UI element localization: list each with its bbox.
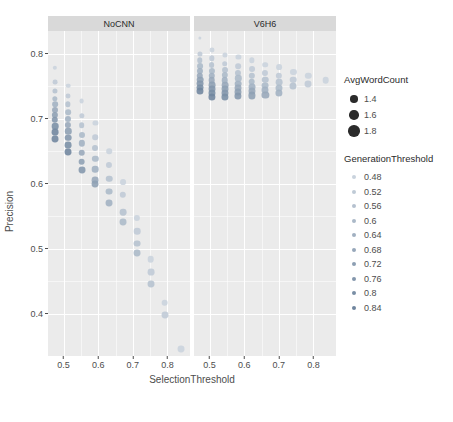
data-point bbox=[51, 135, 58, 142]
data-point bbox=[275, 89, 282, 96]
data-point bbox=[197, 51, 202, 56]
legend-entry-label: 1.4 bbox=[364, 94, 377, 104]
gridline-horizontal bbox=[194, 249, 336, 250]
legend-entry-label: 0.76 bbox=[364, 274, 382, 284]
facet-nocnn: NoCNN bbox=[48, 16, 190, 356]
x-axis-tick-label: 0.8 bbox=[161, 356, 174, 370]
legend-entry[interactable]: 0.6 bbox=[344, 214, 452, 229]
gridline-vertical bbox=[313, 31, 314, 356]
legend-key-dot-icon bbox=[344, 219, 364, 223]
legend-entry-label: 1.8 bbox=[364, 126, 377, 136]
data-point bbox=[222, 61, 228, 67]
legend-entry[interactable]: 1.8 bbox=[344, 123, 452, 139]
data-point bbox=[78, 149, 85, 156]
data-point bbox=[65, 134, 72, 141]
y-axis-tick-label: 0.7 bbox=[30, 114, 48, 124]
data-point bbox=[66, 83, 71, 88]
gridline-vertical bbox=[133, 31, 134, 356]
gridline-vertical-minor bbox=[81, 31, 82, 356]
gridline-horizontal bbox=[48, 54, 190, 55]
x-axis-tick-label: 0.5 bbox=[57, 356, 70, 370]
gridline-vertical bbox=[98, 31, 99, 356]
gridline-horizontal bbox=[194, 119, 336, 120]
gridline-horizontal bbox=[194, 184, 336, 185]
data-point bbox=[196, 88, 203, 95]
gridline-vertical bbox=[167, 31, 168, 356]
data-point bbox=[79, 122, 85, 128]
legend-key-dot-icon bbox=[344, 95, 364, 103]
data-point bbox=[119, 209, 126, 216]
legend-entry[interactable]: 0.8 bbox=[344, 286, 452, 301]
legend-entry-label: 1.6 bbox=[364, 110, 377, 120]
data-point bbox=[305, 80, 312, 87]
legend-title: GenerationThreshold bbox=[344, 153, 452, 164]
data-point bbox=[52, 96, 57, 101]
legend-entry[interactable]: 0.76 bbox=[344, 272, 452, 287]
data-point bbox=[65, 109, 71, 115]
data-point bbox=[92, 145, 98, 151]
data-point bbox=[290, 83, 297, 90]
x-axis-tick-label: 0.6 bbox=[238, 356, 251, 370]
x-axis-tick-label: 0.5 bbox=[203, 356, 216, 370]
data-point bbox=[65, 121, 71, 127]
data-point bbox=[120, 192, 126, 198]
data-point bbox=[198, 37, 201, 40]
data-point bbox=[78, 158, 85, 165]
data-point bbox=[209, 47, 214, 52]
data-point bbox=[147, 269, 154, 276]
legend-entry[interactable]: 0.52 bbox=[344, 185, 452, 200]
legend-title: AvgWordCount bbox=[344, 74, 452, 85]
data-point bbox=[236, 54, 241, 59]
legend-entry-label: 0.68 bbox=[364, 245, 382, 255]
data-point bbox=[134, 249, 141, 256]
data-point bbox=[107, 148, 113, 154]
data-point bbox=[53, 66, 57, 70]
legend-entry[interactable]: 0.84 bbox=[344, 301, 452, 316]
x-axis-tick-group: 0.50.60.70.8 bbox=[194, 356, 336, 372]
data-point bbox=[276, 64, 282, 70]
data-point bbox=[134, 228, 141, 235]
legend-entry[interactable]: 0.72 bbox=[344, 257, 452, 272]
data-point bbox=[134, 215, 140, 221]
legend-key-dot-icon bbox=[344, 291, 364, 295]
data-point bbox=[78, 140, 84, 146]
data-point bbox=[263, 62, 269, 68]
data-point bbox=[249, 66, 255, 72]
data-point bbox=[78, 167, 85, 174]
data-point bbox=[65, 148, 72, 155]
gridline-horizontal-minor bbox=[194, 216, 336, 217]
legend-entry[interactable]: 1.4 bbox=[344, 91, 452, 107]
data-point bbox=[248, 92, 255, 99]
facet-panels: NoCNNV6H6 bbox=[48, 16, 336, 356]
legend-entry-label: 0.72 bbox=[364, 259, 382, 269]
data-point bbox=[305, 73, 311, 79]
legend-area: AvgWordCount1.41.61.8GenerationThreshold… bbox=[344, 74, 452, 329]
legend-generation-threshold: GenerationThreshold0.480.520.560.60.640.… bbox=[344, 153, 452, 315]
facet-strip-label: V6H6 bbox=[194, 16, 336, 31]
facet-strip-label: NoCNN bbox=[48, 16, 190, 31]
legend-key-dot-icon bbox=[344, 110, 364, 120]
facet-v6h6: V6H6 bbox=[194, 16, 336, 356]
legend-key-dot-icon bbox=[344, 175, 364, 179]
legend-entry-label: 0.84 bbox=[364, 303, 382, 313]
data-point bbox=[65, 141, 72, 148]
gridline-horizontal-minor bbox=[48, 216, 190, 217]
data-point bbox=[161, 299, 168, 306]
y-axis-title: Precision bbox=[2, 0, 18, 422]
data-point bbox=[147, 280, 154, 287]
data-point bbox=[92, 166, 99, 173]
legend-entry[interactable]: 0.48 bbox=[344, 170, 452, 185]
x-axis-tick-label: 0.7 bbox=[273, 356, 286, 370]
x-axis-ticks: 0.50.60.70.80.50.60.70.8 bbox=[48, 356, 336, 372]
data-point bbox=[119, 219, 126, 226]
legend-entry[interactable]: 0.64 bbox=[344, 228, 452, 243]
x-axis-title-label: SelectionThreshold bbox=[149, 374, 235, 385]
legend-entry[interactable]: 0.68 bbox=[344, 243, 452, 258]
y-axis-tick-label: 0.6 bbox=[30, 179, 48, 189]
legend-entry[interactable]: 0.56 bbox=[344, 199, 452, 214]
y-axis-title-label: Precision bbox=[5, 190, 16, 231]
y-axis-ticks: 0.80.70.60.50.4 bbox=[18, 0, 48, 422]
data-point bbox=[66, 94, 71, 99]
legend-key-dot-icon bbox=[344, 277, 364, 281]
legend-entry[interactable]: 1.6 bbox=[344, 107, 452, 123]
